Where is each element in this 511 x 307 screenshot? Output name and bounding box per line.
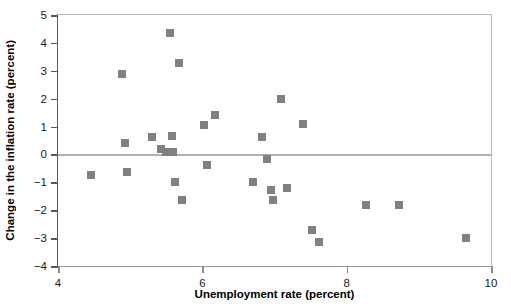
data-point bbox=[166, 29, 174, 37]
data-point bbox=[299, 120, 307, 128]
data-point bbox=[462, 234, 470, 242]
y-axis-tick-label: 2 bbox=[41, 93, 47, 105]
data-point bbox=[168, 132, 176, 140]
data-point bbox=[118, 70, 126, 78]
x-axis-tick bbox=[491, 266, 493, 273]
y-axis-tick-label: 5 bbox=[41, 9, 47, 21]
y-axis-tick-label: 4 bbox=[41, 37, 47, 49]
y-axis-tick bbox=[51, 127, 58, 129]
x-axis-tick bbox=[202, 266, 204, 273]
plot-area: 543210−1−2−3−4 46810 bbox=[57, 14, 492, 267]
scatter-chart-figure: Change in the inflation rate (percent) 5… bbox=[0, 0, 511, 307]
y-axis-title-text: Change in the inflation rate (percent) bbox=[4, 40, 16, 241]
data-point bbox=[267, 186, 275, 194]
data-point bbox=[203, 161, 211, 169]
data-point bbox=[263, 155, 271, 163]
y-axis-tick bbox=[51, 238, 58, 240]
y-axis-tick-label: 3 bbox=[41, 65, 47, 77]
y-axis-tick bbox=[51, 99, 58, 101]
x-axis-title: Unemployment rate (percent) bbox=[57, 288, 492, 300]
data-point bbox=[148, 133, 156, 141]
data-point bbox=[87, 171, 95, 179]
data-point bbox=[175, 59, 183, 67]
data-point bbox=[395, 201, 403, 209]
zero-reference-line bbox=[58, 154, 491, 156]
y-axis-tick-label: −4 bbox=[34, 260, 47, 272]
y-axis-tick bbox=[51, 266, 58, 268]
data-point bbox=[283, 184, 291, 192]
data-point bbox=[121, 139, 129, 147]
y-axis-tick-label: 1 bbox=[41, 121, 47, 133]
y-axis-title: Change in the inflation rate (percent) bbox=[2, 14, 18, 267]
y-axis-tick-label: 0 bbox=[41, 148, 47, 160]
y-axis-tick bbox=[51, 71, 58, 73]
y-axis-tick-label: −2 bbox=[34, 204, 47, 216]
data-point bbox=[258, 133, 266, 141]
y-axis-tick bbox=[51, 210, 58, 212]
y-axis-tick-label: −3 bbox=[34, 232, 47, 244]
data-point bbox=[362, 201, 370, 209]
data-point bbox=[249, 178, 257, 186]
x-axis-tick bbox=[347, 266, 349, 273]
x-axis-tick bbox=[58, 266, 60, 273]
data-point bbox=[178, 196, 186, 204]
data-point bbox=[315, 238, 323, 246]
data-point bbox=[308, 226, 316, 234]
y-axis-tick bbox=[51, 43, 58, 45]
y-axis-tick bbox=[51, 15, 58, 17]
y-axis-tick bbox=[51, 154, 58, 156]
y-axis-tick bbox=[51, 182, 58, 184]
data-point bbox=[123, 168, 131, 176]
data-point bbox=[169, 148, 177, 156]
data-point bbox=[200, 121, 208, 129]
data-point bbox=[171, 178, 179, 186]
data-point bbox=[269, 196, 277, 204]
data-point bbox=[277, 95, 285, 103]
y-axis-tick-label: −1 bbox=[34, 176, 47, 188]
data-point bbox=[211, 111, 219, 119]
